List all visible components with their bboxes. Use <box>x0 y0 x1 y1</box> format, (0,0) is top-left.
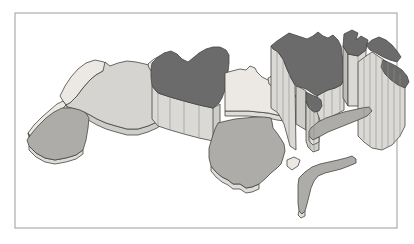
arabia-south-wall <box>296 86 306 130</box>
figure-canvas <box>0 0 414 244</box>
kuwait-left-wall <box>343 46 348 106</box>
eritrea-djibouti-top <box>287 157 300 170</box>
mauritania-top <box>27 108 89 160</box>
somalia-top <box>298 156 356 214</box>
prism-map-3d <box>0 0 414 244</box>
